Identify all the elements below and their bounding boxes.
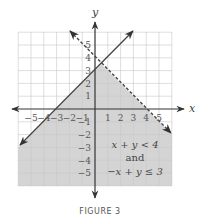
- svg-text:3: 3: [131, 113, 137, 123]
- svg-text:−1: −1: [78, 117, 91, 127]
- svg-text:−2: −2: [63, 113, 76, 123]
- svg-text:−5: −5: [24, 113, 38, 123]
- svg-text:−5: −5: [78, 168, 92, 178]
- svg-text:and: and: [126, 152, 145, 163]
- svg-text:4: 4: [143, 113, 149, 123]
- svg-text:2: 2: [85, 79, 91, 89]
- svg-text:−2: −2: [78, 130, 91, 140]
- svg-text:1: 1: [85, 91, 91, 101]
- figure-caption: FIGURE 3: [79, 207, 120, 216]
- svg-text:5: 5: [156, 113, 162, 123]
- x-axis-label: x: [189, 102, 196, 115]
- svg-text:1: 1: [105, 113, 111, 123]
- svg-text:−x + y ≤ 3: −x + y ≤ 3: [107, 166, 163, 177]
- svg-text:2: 2: [118, 113, 124, 123]
- svg-text:−4: −4: [78, 156, 92, 166]
- svg-text:−4: −4: [37, 113, 51, 123]
- svg-text:−3: −3: [50, 113, 64, 123]
- svg-text:4: 4: [85, 53, 91, 63]
- inequality-graph: y x −5 −4 −3 −2 −1 1 2 3 4 5 5 4 3 2 1 −…: [0, 0, 205, 222]
- svg-text:x + y < 4: x + y < 4: [111, 139, 158, 150]
- svg-text:−3: −3: [78, 143, 92, 153]
- y-axis-label: y: [91, 6, 99, 19]
- svg-text:5: 5: [85, 40, 91, 50]
- svg-text:3: 3: [85, 66, 91, 76]
